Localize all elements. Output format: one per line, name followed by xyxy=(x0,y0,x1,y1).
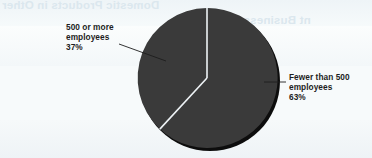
label-500-or-more-line2: employees xyxy=(66,32,109,42)
label-500-or-more: 500 or more employees 37% xyxy=(66,22,114,53)
label-500-or-more-percent: 37% xyxy=(66,42,114,52)
pie-chart-figure: Domestic Products in Other nt Business S… xyxy=(0,0,372,158)
label-fewer-than-500-line1: Fewer than 500 xyxy=(289,72,350,82)
label-fewer-than-500-percent: 63% xyxy=(289,92,350,102)
label-fewer-than-500-line2: employees xyxy=(289,82,332,92)
label-fewer-than-500: Fewer than 500 employees 63% xyxy=(289,72,350,103)
label-500-or-more-line1: 500 or more xyxy=(66,22,114,32)
